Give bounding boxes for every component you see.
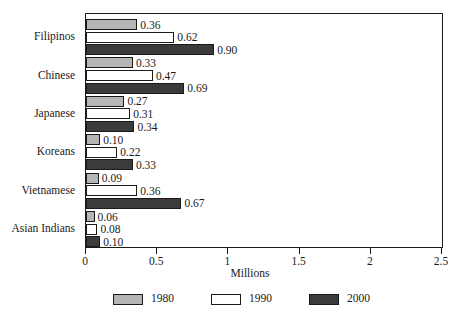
category-label-vietnamese: Vietnamese [0, 185, 81, 197]
bar-filipinos-2000 [86, 44, 214, 55]
bar-chart: FilipinosChineseJapaneseKoreansVietnames… [0, 0, 462, 317]
bar-koreans-2000 [86, 159, 133, 170]
bar-chinese-1980 [86, 57, 133, 68]
bar-vietnamese-1990 [86, 185, 137, 196]
x-tick-mark-1.5 [299, 248, 300, 254]
legend-swatch-1980 [113, 294, 143, 305]
bar-vietnamese-2000 [86, 198, 181, 209]
category-label-filipinos: Filipinos [0, 31, 81, 43]
bar-value-asian-indians-2000: 0.10 [103, 237, 123, 249]
bar-value-japanese-1990: 0.31 [133, 109, 153, 121]
legend-swatch-2000 [309, 294, 339, 305]
category-label-koreans: Koreans [0, 146, 81, 158]
bar-value-koreans-1980: 0.10 [103, 135, 123, 147]
x-tick-mark-2 [370, 248, 371, 254]
bar-asian-indians-2000 [86, 236, 100, 247]
legend-item-1990[interactable]: 1990 [211, 292, 272, 306]
x-tick-label-1.5: 1.5 [291, 256, 305, 268]
bar-value-japanese-1980: 0.27 [127, 96, 147, 108]
x-axis-title: Millions [0, 268, 462, 280]
legend-item-2000[interactable]: 2000 [309, 292, 370, 306]
category-label-japanese: Japanese [0, 108, 81, 120]
bar-vietnamese-1980 [86, 173, 99, 184]
bar-value-chinese-1980: 0.33 [136, 58, 156, 70]
bar-value-vietnamese-1980: 0.09 [102, 173, 122, 185]
bar-asian-indians-1980 [86, 211, 95, 222]
bar-value-koreans-2000: 0.33 [136, 160, 156, 172]
legend-label-2000: 2000 [347, 293, 370, 305]
bar-value-filipinos-1990: 0.62 [177, 32, 197, 44]
bar-japanese-2000 [86, 121, 134, 132]
bars-layer: 0.360.620.900.330.470.690.270.310.340.10… [86, 14, 442, 247]
chart-legend: 198019902000 [0, 292, 462, 310]
bar-value-chinese-1990: 0.47 [156, 71, 176, 83]
bar-value-japanese-2000: 0.34 [137, 122, 157, 134]
bar-value-asian-indians-1980: 0.06 [98, 212, 118, 224]
x-axis-title-text: Millions [231, 267, 270, 279]
bar-asian-indians-1990 [86, 224, 97, 235]
category-label-asian-indians: Asian Indians [0, 223, 81, 235]
bar-japanese-1980 [86, 96, 124, 107]
bar-value-vietnamese-2000: 0.67 [184, 198, 204, 210]
x-tick-label-2.5: 2.5 [434, 256, 448, 268]
bar-koreans-1990 [86, 147, 117, 158]
x-tick-label-0: 0 [82, 256, 88, 268]
bar-chinese-2000 [86, 83, 184, 94]
x-tick-label-1: 1 [225, 256, 231, 268]
x-tick-label-2: 2 [367, 256, 373, 268]
bar-koreans-1980 [86, 134, 100, 145]
bar-value-chinese-2000: 0.69 [187, 83, 207, 95]
x-tick-mark-2.5 [441, 248, 442, 254]
bar-filipinos-1980 [86, 19, 137, 30]
legend-label-1990: 1990 [249, 293, 272, 305]
bar-value-filipinos-1980: 0.36 [140, 20, 160, 32]
bar-value-vietnamese-1990: 0.36 [140, 186, 160, 198]
legend-label-1980: 1980 [151, 293, 174, 305]
category-label-chinese: Chinese [0, 70, 81, 82]
bar-value-koreans-1990: 0.22 [120, 147, 140, 159]
legend-item-1980[interactable]: 1980 [113, 292, 174, 306]
bar-value-filipinos-2000: 0.90 [217, 45, 237, 57]
legend-swatch-1990 [211, 294, 241, 305]
x-tick-mark-0 [85, 248, 86, 254]
x-tick-mark-0.5 [156, 248, 157, 254]
x-tick-label-0.5: 0.5 [149, 256, 163, 268]
bar-value-asian-indians-1990: 0.08 [100, 224, 120, 236]
x-tick-mark-1 [227, 248, 228, 254]
bar-filipinos-1990 [86, 32, 174, 43]
bar-chinese-1990 [86, 70, 153, 81]
bar-japanese-1990 [86, 108, 130, 119]
category-axis-labels: FilipinosChineseJapaneseKoreansVietnames… [0, 13, 81, 248]
